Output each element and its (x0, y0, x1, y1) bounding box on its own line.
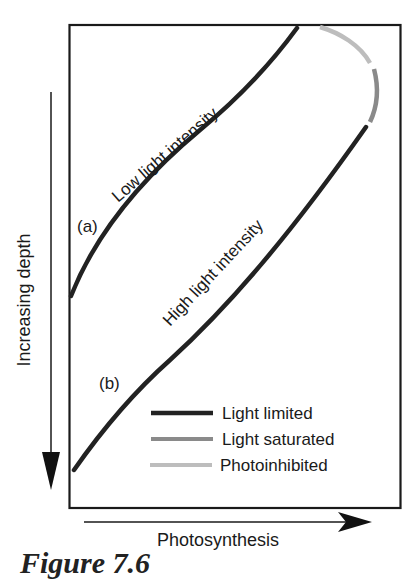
depth-arrowhead-icon (42, 452, 60, 490)
curve-a-light-limited (71, 28, 297, 296)
curve-b-tag: (b) (99, 374, 120, 393)
legend-label-photoinhibited: Photoinhibited (220, 456, 328, 475)
curve-b-light-saturated (370, 69, 377, 122)
x-axis-label: Photosynthesis (157, 530, 279, 550)
curve-b-photoinhibited (320, 27, 370, 63)
legend: Light limited Light saturated Photoinhib… (150, 404, 334, 475)
curve-b-label: High light intensity (159, 216, 267, 330)
legend-label-light-saturated: Light saturated (222, 430, 334, 449)
curve-b-light-limited (74, 127, 366, 470)
figure-caption-fragment: Figure 7.6 (20, 548, 150, 578)
y-axis-label: Increasing depth (14, 233, 34, 366)
curve-a-tag: (a) (77, 217, 98, 236)
legend-label-light-limited: Light limited (222, 404, 313, 423)
curve-a-label: Low light intensity (108, 103, 222, 206)
